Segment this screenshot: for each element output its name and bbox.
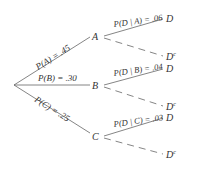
node-b-dc: Dc (165, 101, 176, 112)
node-a-d: D (165, 13, 174, 24)
node-b-d: D (165, 63, 174, 74)
node-b: B (92, 80, 98, 91)
edge-c-dc (104, 138, 163, 154)
node-c-dc: Dc (165, 149, 176, 160)
label-p-a: P(A) = .45 (33, 42, 72, 72)
label-p-c: P(C) = .25 (32, 94, 72, 124)
node-a: A (91, 31, 99, 42)
node-a-dc: Dc (165, 51, 176, 62)
edge-b-dc (104, 87, 163, 106)
label-p-d-given-c: P(D | C) = .03 (112, 112, 164, 129)
edge-a-dc (104, 38, 163, 56)
node-c-d: D (165, 112, 174, 123)
node-c: C (92, 131, 99, 142)
label-p-b: P(B) = .30 (37, 73, 77, 83)
probability-tree: P(A) = .45 P(B) = .30 P(C) = .25 A B C P… (0, 0, 200, 170)
